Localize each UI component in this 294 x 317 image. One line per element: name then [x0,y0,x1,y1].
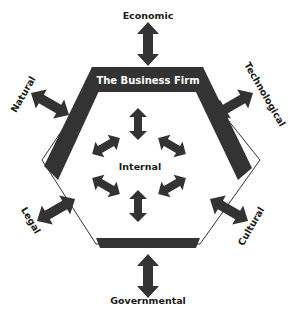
internal-top-arrow-icon [129,108,147,140]
internal-upper-right-arrow-icon [154,130,191,162]
internal-lower-left-arrow-icon [88,170,125,202]
internal-label: Internal [119,161,161,172]
internal-bottom-arrow-icon [129,190,147,222]
title-label: The Business Firm [96,75,199,86]
economic-arrow-icon [137,22,159,66]
economic-label: Economic [123,10,174,21]
internal-lower-right-arrow-icon [154,170,191,202]
business-environment-diagram: The Business Firm Internal Economic Tech… [0,0,294,317]
bottom-bar [96,238,200,248]
governmental-label: Governmental [110,295,186,306]
internal-upper-left-arrow-icon [88,130,125,162]
governmental-arrow-icon [137,254,159,298]
